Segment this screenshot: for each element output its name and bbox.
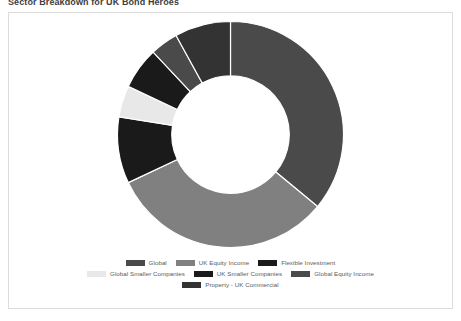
legend-swatch-icon xyxy=(291,271,310,277)
legend-item[interactable]: Global Smaller Companies xyxy=(87,269,185,278)
legend-item-label: Global Equity Income xyxy=(314,269,374,278)
chart-legend: GlobalUK Equity IncomeFlexible Investmen… xyxy=(9,258,452,289)
legend-item-label: UK Smaller Companies xyxy=(217,269,282,278)
legend-swatch-icon xyxy=(126,260,145,266)
legend-item-label: Global xyxy=(149,258,167,267)
legend-item-label: UK Equity Income xyxy=(199,258,249,267)
legend-item[interactable]: UK Smaller Companies xyxy=(194,269,282,278)
legend-row: GlobalUK Equity IncomeFlexible Investmen… xyxy=(126,258,336,267)
legend-swatch-icon xyxy=(258,260,277,266)
legend-swatch-icon xyxy=(194,271,213,277)
legend-item[interactable]: UK Equity Income xyxy=(176,258,249,267)
legend-item-label: Flexible Investment xyxy=(281,258,335,267)
legend-item-label: Property - UK Commercial xyxy=(205,280,278,289)
donut-slice[interactable] xyxy=(231,22,344,207)
legend-item[interactable]: Global Equity Income xyxy=(291,269,374,278)
legend-item[interactable]: Global xyxy=(126,258,167,267)
donut-chart-svg xyxy=(9,13,452,256)
legend-item[interactable]: Property - UK Commercial xyxy=(182,280,278,289)
legend-swatch-icon xyxy=(176,260,195,266)
chart-card: GlobalUK Equity IncomeFlexible Investmen… xyxy=(8,12,453,309)
donut-chart xyxy=(9,13,452,256)
legend-row: Property - UK Commercial xyxy=(182,280,278,289)
legend-swatch-icon xyxy=(87,271,106,277)
legend-item[interactable]: Flexible Investment xyxy=(258,258,335,267)
legend-swatch-icon xyxy=(182,282,201,288)
legend-item-label: Global Smaller Companies xyxy=(110,269,185,278)
page-title: Sector Breakdown for UK Bond Heroes xyxy=(8,0,179,7)
donut-slice-group xyxy=(118,22,344,248)
legend-row: Global Smaller CompaniesUK Smaller Compa… xyxy=(87,269,374,278)
